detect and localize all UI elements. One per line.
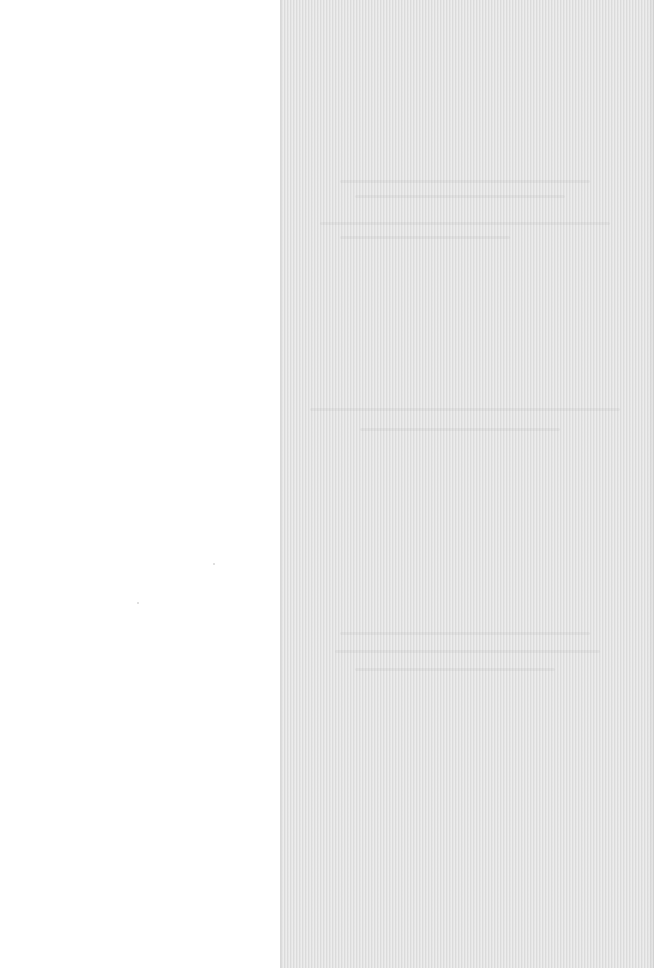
show-through-line <box>360 428 560 431</box>
textured-gray-panel <box>280 0 654 968</box>
show-through-line <box>355 668 555 671</box>
dust-speck <box>137 602 139 604</box>
blank-left-area <box>0 0 280 968</box>
show-through-line <box>340 236 510 239</box>
show-through-line <box>335 650 600 653</box>
show-through-line <box>320 222 610 225</box>
show-through-line <box>355 195 565 198</box>
show-through-line <box>310 408 620 411</box>
show-through-line <box>340 180 590 183</box>
show-through-line <box>340 632 590 635</box>
panel-edge-shadow <box>648 0 654 968</box>
dust-speck <box>213 563 215 565</box>
page <box>0 0 654 968</box>
